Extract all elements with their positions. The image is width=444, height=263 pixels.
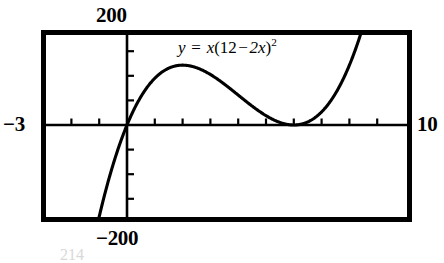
x-max-label: 10 [417, 114, 437, 135]
x-min-label: −3 [3, 114, 25, 135]
equation-minus: − [237, 38, 250, 57]
equation-equals: = [190, 38, 203, 57]
equation-annotation: y = x(12−2x)2 [178, 39, 277, 56]
equation-constant: 12 [220, 38, 237, 57]
equation-linear-term: 2x [249, 38, 265, 57]
y-max-label: 200 [96, 5, 127, 26]
scan-artifact-text: 214 [60, 247, 84, 263]
equation-exponent: 2 [271, 36, 277, 48]
y-min-label: −200 [96, 228, 138, 249]
equation-lhs: y [178, 38, 186, 57]
